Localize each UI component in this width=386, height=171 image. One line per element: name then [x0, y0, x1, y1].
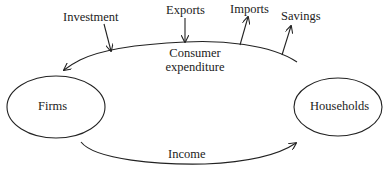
income-label: Income: [168, 147, 205, 161]
imports-label: Imports: [230, 2, 269, 16]
diagram-graphics: [0, 0, 386, 171]
savings-label: Savings: [281, 9, 321, 23]
imports-arrow: [240, 17, 248, 45]
investment-label: Investment: [63, 10, 119, 24]
circular-flow-diagram: Investment Exports Imports Savings Consu…: [0, 0, 386, 171]
households-label: Households: [310, 99, 369, 113]
savings-arrow: [282, 26, 291, 55]
consumer-expenditure-label: Consumer expenditure: [155, 46, 235, 74]
investment-arrow: [104, 24, 111, 51]
exports-label: Exports: [166, 3, 205, 17]
firms-label: Firms: [38, 99, 67, 113]
